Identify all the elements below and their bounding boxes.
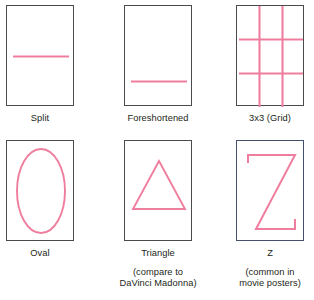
- foreshortened-line-icon: [125, 6, 193, 107]
- panel-oval: Oval: [0, 136, 116, 300]
- panel-label-grid-3x3: 3x3 (Grid): [224, 113, 314, 125]
- frame-grid-3x3: [236, 5, 304, 106]
- panel-label-z: Z: [224, 248, 314, 260]
- frame-z: [236, 140, 304, 241]
- panel-note-z: (common in movie posters): [224, 267, 314, 290]
- panel-foreshortened: Foreshortened: [116, 0, 232, 136]
- panel-note-triangle: (compare to DaVinci Madonna): [108, 267, 208, 290]
- panel-grid-3x3: 3x3 (Grid): [232, 0, 314, 136]
- triangle-icon: [125, 141, 193, 242]
- panel-z: Z (common in movie posters): [232, 136, 314, 300]
- panel-split: Split: [0, 0, 116, 136]
- panel-label-foreshortened: Foreshortened: [108, 113, 208, 125]
- frame-split: [6, 5, 74, 106]
- letter-z-icon: [237, 141, 305, 242]
- rule-of-thirds-grid-icon: [237, 6, 305, 107]
- frame-foreshortened: [124, 5, 192, 106]
- oval-icon: [7, 141, 75, 242]
- panel-label-split: Split: [6, 113, 74, 125]
- frame-oval: [6, 140, 74, 241]
- panel-label-triangle: Triangle: [108, 248, 208, 260]
- frame-triangle: [124, 140, 192, 241]
- panel-triangle: Triangle (compare to DaVinci Madonna): [116, 136, 232, 300]
- split-line-icon: [7, 6, 75, 107]
- panel-label-oval: Oval: [6, 248, 74, 260]
- diagram-sheet: Split Foreshortened: [0, 0, 314, 300]
- panel-grid: Split Foreshortened: [0, 0, 314, 300]
